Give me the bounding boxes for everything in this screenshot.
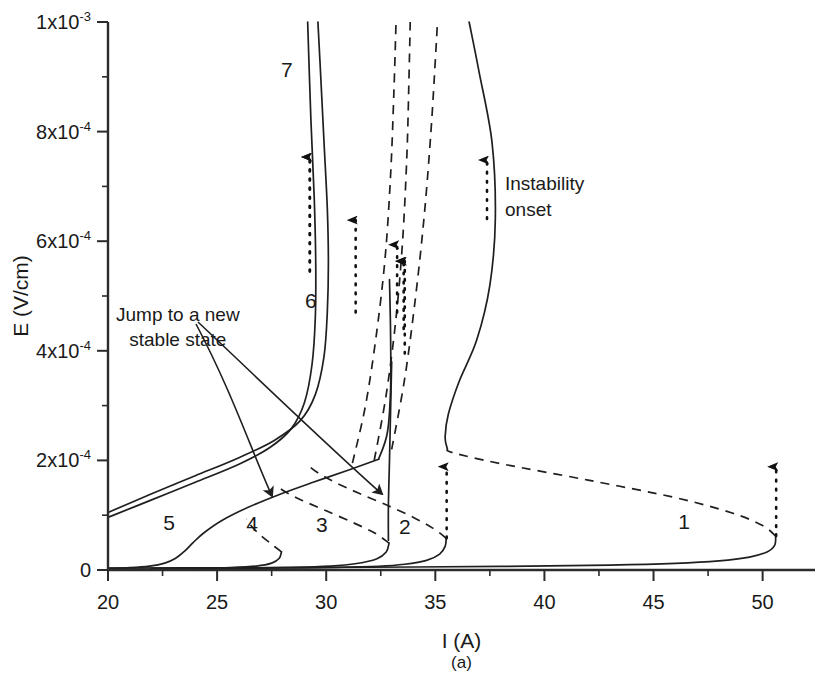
x-tick-label: 45 — [642, 591, 664, 613]
curve-upper-branch-1 — [445, 22, 495, 449]
annotations-layer: Jump to a newstable stateInstabilityonse… — [116, 160, 585, 496]
figure-panel-a: 2025303540455002x10-44x10-46x10-48x10-41… — [0, 0, 823, 674]
x-tick-label: 25 — [206, 591, 228, 613]
figure-caption: (a) — [451, 653, 472, 672]
x-tick-label: 35 — [424, 591, 446, 613]
y-tick-label: 4x10-4 — [36, 338, 91, 362]
x-tick-label: 40 — [533, 591, 555, 613]
curve-stable-branch-7 — [108, 22, 316, 517]
curve-label-2: 2 — [399, 515, 411, 538]
curve-labels-layer: 7654321 — [163, 58, 690, 538]
y-tick-label: 6x10-4 — [36, 228, 91, 252]
y-tick-label: 1x10-3 — [36, 9, 91, 33]
curve-stable-branch-3 — [182, 543, 389, 568]
legend-label-line1: Instability — [505, 173, 585, 194]
curve-label-6: 6 — [305, 289, 317, 312]
x-axis-title: I (A) — [442, 629, 482, 652]
curve-dashed-dashed-rising-c — [392, 22, 438, 449]
legend-label-line2: onset — [505, 199, 552, 220]
jump-annotation-line1: Jump to a new — [116, 304, 240, 325]
curve-label-1: 1 — [678, 510, 690, 533]
x-tick-label: 30 — [315, 591, 337, 613]
jump-annotation-line2: stable state — [129, 329, 226, 350]
axis-spines — [108, 22, 815, 570]
curve-label-3: 3 — [316, 513, 328, 536]
y-tick-label: 8x10-4 — [36, 119, 91, 143]
curves-layer — [108, 22, 776, 568]
curve-stable-branch-5 — [108, 459, 379, 568]
x-tick-label: 20 — [97, 591, 119, 613]
iv-characteristic-chart: 2025303540455002x10-44x10-46x10-48x10-41… — [0, 0, 823, 674]
y-tick-label: 0 — [80, 559, 91, 581]
curve-label-4: 4 — [246, 512, 258, 535]
curve-label-5: 5 — [163, 511, 175, 534]
curve-label-7: 7 — [281, 58, 293, 81]
curve-stable-branch-6 — [108, 22, 328, 512]
y-tick-label: 2x10-4 — [36, 447, 91, 471]
curve-dashed-dashed-rising-b — [374, 22, 410, 460]
y-axis-title: E (V/cm) — [9, 255, 32, 337]
curve-stable-branch-2 — [230, 538, 446, 568]
curve-unstable-branch-1 — [447, 449, 776, 536]
curve-upper-branch-5 — [379, 280, 391, 460]
x-tick-label: 50 — [752, 591, 774, 613]
jump-annotation-arrow-right — [198, 322, 382, 494]
curve-unstable-branch-3 — [279, 488, 389, 543]
